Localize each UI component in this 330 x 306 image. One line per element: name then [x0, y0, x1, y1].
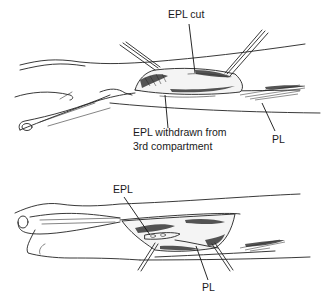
label-epl-withdrawn-line2: 3rd compartment	[133, 140, 212, 153]
leader-epl-cut	[189, 24, 195, 73]
forearm-drawing-bottom	[0, 160, 330, 306]
leader-epl-withdrawn	[165, 95, 168, 128]
leader-pl-bottom	[196, 246, 208, 280]
top-panel-illustration: EPL cut EPL withdrawn from 3rd compartme…	[0, 0, 330, 160]
bottom-panel-illustration: EPL PL	[0, 160, 330, 306]
label-pl-bottom: PL	[202, 281, 215, 294]
leader-pl-top	[262, 103, 275, 131]
label-epl-withdrawn-line1: EPL withdrawn from	[133, 126, 227, 139]
label-pl-top: PL	[272, 133, 285, 146]
label-epl-bottom: EPL	[113, 183, 133, 196]
label-epl-cut: EPL cut	[168, 8, 204, 21]
